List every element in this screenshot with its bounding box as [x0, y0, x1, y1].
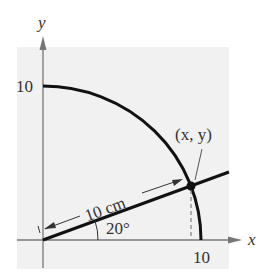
y-axis-label: y: [36, 13, 46, 32]
point-label: (x, y): [175, 125, 212, 144]
y-tick-label: 10: [16, 77, 33, 96]
y-axis-arrow-icon: [40, 36, 47, 50]
x-axis-arrow-icon: [228, 237, 242, 244]
angle-label: 20°: [106, 219, 130, 238]
x-tick-label: 10: [193, 248, 210, 267]
point-xy: [187, 182, 196, 191]
quarter-circle-diagram: y 10 x 10 (x, y) 10 cm 20°: [0, 0, 276, 278]
x-axis-label: x: [247, 230, 256, 249]
